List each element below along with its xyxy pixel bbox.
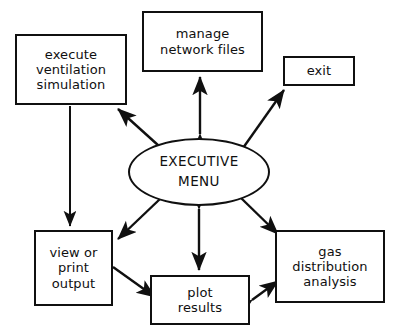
node-manage-network-files[interactable]: manage network files [142, 11, 263, 72]
node-execute-ventilation-simulation[interactable]: execute ventilation simulation [15, 34, 127, 105]
node-label: EXECUTIVE MENU [159, 152, 238, 191]
edge-view-to-plot [113, 267, 155, 297]
edge-menu-view [118, 199, 160, 239]
node-label: view or print output [49, 245, 97, 291]
edge-menu-to-execute [118, 109, 159, 146]
node-gas-distribution-analysis[interactable]: gas distribution analysis [275, 230, 385, 303]
node-label: manage network files [160, 26, 245, 57]
node-view-or-print-output[interactable]: view or print output [34, 230, 113, 306]
node-executive-menu[interactable]: EXECUTIVE MENU [128, 138, 270, 206]
node-label: execute ventilation simulation [36, 47, 106, 93]
node-label: gas distribution analysis [292, 244, 367, 290]
node-plot-results[interactable]: plot results [150, 275, 250, 325]
node-label: plot results [178, 285, 222, 316]
node-label: exit [307, 63, 332, 78]
edge-menu-to-exit [243, 90, 284, 148]
diagram-canvas: execute ventilation simulation manage ne… [0, 0, 399, 335]
node-exit[interactable]: exit [283, 56, 355, 86]
edge-menu-gas [241, 198, 278, 234]
